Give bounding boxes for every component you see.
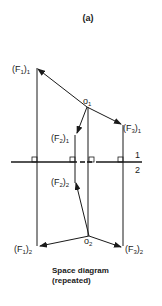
label-f2-2: (F2)2 [51,177,70,188]
label-o1: o1 [83,96,92,107]
vector-f1-view2 [40,236,89,246]
label-plane-1: 1 [135,150,140,160]
caption-line-1: Space diagram [52,266,109,276]
figure-caption: Space diagram (repeated) [52,266,109,286]
vector-f3-view1 [87,107,121,124]
caption-line-2: (repeated) [52,276,109,286]
label-f1-2: (F1)2 [14,244,33,255]
vector-f1-view1 [38,69,87,107]
vector-f3-view2 [89,236,121,247]
vector-f2-view1 [77,107,87,133]
label-plane-2: 2 [135,165,140,175]
label-f2-1: (F2)1 [51,133,70,144]
vector-f2-view2 [76,183,89,236]
label-o2: o2 [84,236,93,247]
label-f3-1: (F3)1 [123,123,142,134]
label-f1-1: (F1)1 [12,64,31,75]
space-diagram: (F1)1 o1 (F3)1 (F2)1 1 2 (F2)2 o2 (F1)2 … [0,0,162,306]
label-f3-2: (F3)2 [125,244,144,255]
